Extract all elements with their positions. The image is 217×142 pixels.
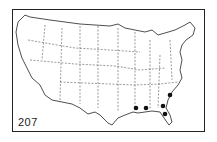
marker-southeast-georgia — [161, 104, 166, 109]
marker-northeast-florida — [163, 112, 168, 117]
us-outline — [16, 15, 195, 125]
marker-alabama — [144, 106, 149, 111]
marker-south-carolina — [168, 93, 173, 98]
figure-number: 207 — [18, 116, 38, 128]
marker-louisiana-mississippi — [134, 106, 139, 111]
